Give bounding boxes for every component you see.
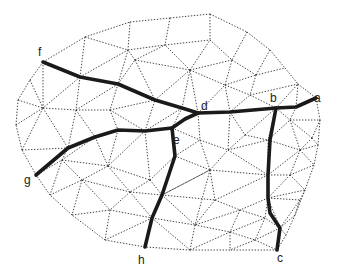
mesh-edge [198, 113, 200, 140]
mesh-edge [228, 140, 268, 150]
mesh-edge [43, 108, 76, 110]
mesh-edge [256, 50, 270, 75]
mesh-edge [175, 156, 210, 170]
mesh-edge [290, 175, 305, 190]
mesh-edge [280, 200, 300, 228]
mesh-edge [225, 85, 230, 112]
node-label-g: g [24, 173, 31, 187]
mesh-edge [22, 108, 43, 150]
mesh-edge [108, 166, 130, 192]
mesh-edge [195, 170, 210, 225]
mesh-edge [228, 112, 230, 150]
mesh-edge [228, 150, 268, 175]
mesh-edge [200, 140, 228, 150]
mesh-edge [190, 40, 210, 70]
mesh-edge [18, 100, 43, 108]
mesh-edge [305, 165, 314, 190]
mesh-edge [110, 110, 145, 131]
mesh-edge [210, 170, 215, 200]
mesh-edge [210, 170, 268, 175]
mesh-edge [195, 210, 240, 225]
triangulated-mesh [16, 14, 320, 250]
mesh-edge [128, 22, 130, 50]
mesh-edge [130, 180, 150, 192]
mesh-edge [152, 218, 195, 225]
mesh-edge [270, 50, 285, 68]
mesh-edge [50, 195, 72, 215]
path-e-g [36, 128, 172, 175]
mesh-edge [118, 60, 135, 84]
mesh-edge [268, 190, 305, 198]
mesh-edge [85, 37, 128, 50]
mesh-edge [110, 192, 130, 210]
mesh-edge [76, 110, 95, 137]
path-e-h [145, 128, 175, 247]
node-label-f: f [38, 45, 42, 59]
mesh-edge [72, 215, 105, 240]
mesh-edge [43, 77, 80, 108]
mesh-edge [312, 138, 318, 145]
mesh-edge [250, 75, 256, 95]
node-label-a: a [314, 91, 321, 105]
mesh-edge [110, 100, 155, 110]
mesh-edge [276, 84, 298, 108]
node-label-e: e [173, 133, 180, 147]
mesh-edge [195, 225, 230, 232]
mesh-edge [22, 148, 68, 150]
mesh-edge [68, 110, 76, 148]
mesh-edge [170, 14, 210, 18]
mesh-edge [256, 68, 285, 75]
mesh-edge [225, 60, 232, 85]
mesh-edge [200, 140, 210, 170]
mesh-edge [16, 100, 18, 125]
mesh-edge [18, 80, 30, 100]
mesh-edge [268, 198, 300, 200]
mesh-edge [255, 240, 277, 250]
mesh-edge [162, 195, 215, 200]
mesh-edge [22, 150, 36, 175]
mesh-edge [268, 140, 300, 150]
mesh-edge [165, 18, 170, 45]
mesh-edge [82, 180, 130, 192]
mesh-edge [230, 112, 245, 135]
node-labels: abcdefgh [24, 45, 321, 267]
mesh-edge [128, 50, 135, 60]
mesh-edge [245, 135, 268, 140]
mesh-edge [285, 68, 298, 84]
mesh-edge [255, 228, 280, 240]
mesh-edge [225, 75, 256, 85]
node-label-b: b [270, 91, 277, 105]
mesh-edge [76, 77, 80, 110]
mesh-edge [300, 190, 305, 200]
path-f-d [43, 62, 198, 113]
mesh-edge [225, 85, 250, 95]
mesh-edge [108, 131, 145, 166]
mesh-edge [30, 62, 43, 80]
mesh-edge [230, 232, 255, 240]
mesh-edge [190, 60, 232, 70]
mesh-edge [105, 240, 145, 247]
mesh-edge [105, 210, 110, 240]
mesh-edge [230, 240, 255, 250]
mesh-edge [215, 200, 240, 210]
mesh-edge [145, 100, 155, 131]
mesh-edge [190, 70, 198, 113]
node-label-c: c [277, 251, 283, 265]
mesh-edge [268, 175, 290, 198]
mesh-edge [190, 232, 230, 250]
mesh-edge [50, 160, 62, 195]
mesh-edge [135, 60, 190, 70]
mesh-edge [210, 150, 228, 170]
mesh-edge [210, 40, 232, 60]
mesh-edge [72, 210, 110, 215]
mesh-edge [215, 175, 268, 200]
mesh-edge [43, 108, 68, 148]
mesh-edge [130, 192, 152, 218]
mesh-edge [190, 225, 195, 250]
mesh-edge [110, 84, 118, 110]
mesh-edge [76, 84, 118, 110]
mesh-edge [150, 180, 162, 195]
node-label-d: d [201, 99, 208, 113]
mesh-edge [145, 131, 150, 180]
path-d-e [172, 113, 198, 128]
